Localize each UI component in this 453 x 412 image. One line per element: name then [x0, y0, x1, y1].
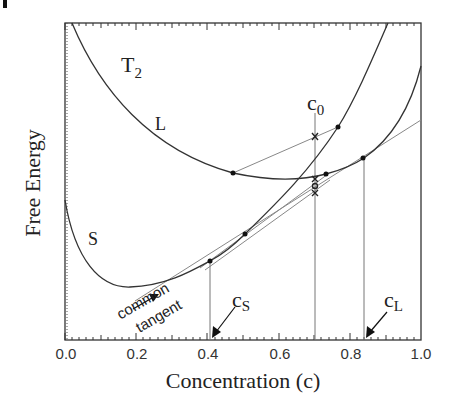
svg-text:0.8: 0.8 — [341, 345, 362, 362]
free-energy-diagram: T2 L S c0 cS cL common tangent 0.0 0.2 0… — [0, 0, 453, 412]
c0-label: c0 — [307, 90, 324, 118]
liquid-label: L — [155, 114, 166, 134]
cropped-fragment — [3, 0, 7, 8]
svg-text:0.6: 0.6 — [270, 345, 291, 362]
bottom-ticks — [65, 333, 414, 340]
top-ticks — [65, 23, 414, 30]
svg-text:1.0: 1.0 — [411, 345, 432, 362]
x-tick-labels: 0.0 0.2 0.4 0.6 0.8 1.0 — [56, 345, 432, 362]
solid-label: S — [88, 229, 98, 249]
svg-text:0.0: 0.0 — [56, 345, 77, 362]
svg-text:0.2: 0.2 — [127, 345, 148, 362]
liquid-curve — [72, 23, 421, 179]
svg-text:0.4: 0.4 — [198, 345, 219, 362]
solid-curve — [65, 23, 388, 287]
x-axis-label: Concentration (c) — [166, 368, 321, 393]
temperature-label: T2 — [121, 52, 142, 81]
cS-label: cS — [232, 287, 250, 314]
tangent-points — [208, 125, 366, 264]
cL-label: cL — [384, 287, 403, 314]
y-axis-label: Free Energy — [20, 129, 45, 237]
